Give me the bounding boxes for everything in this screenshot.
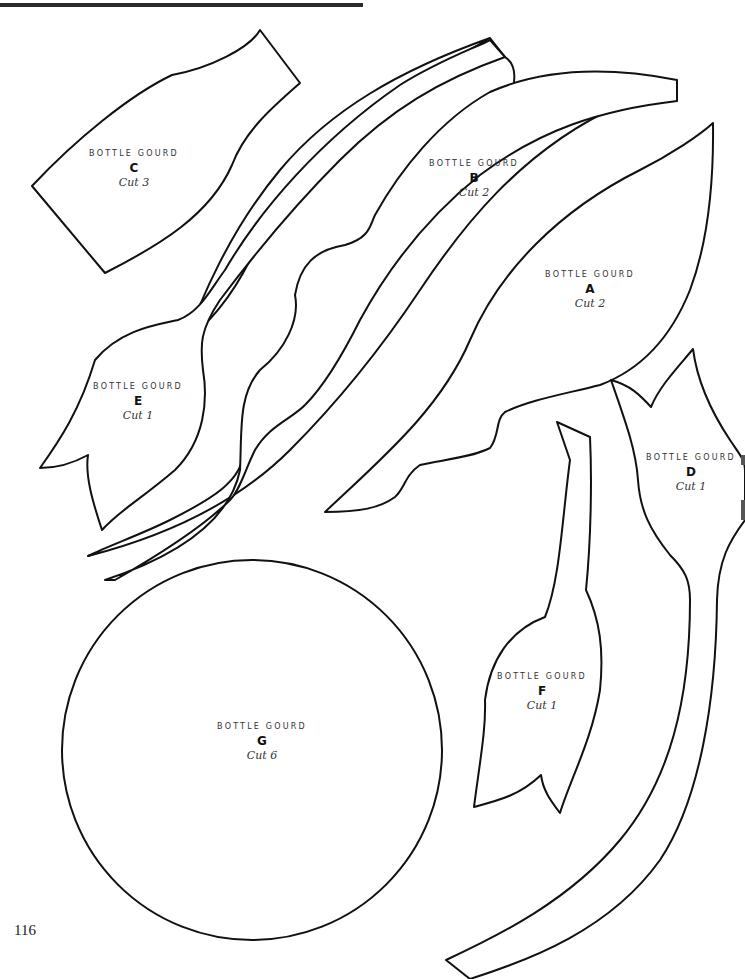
piece-title: BOTTLE GOURD bbox=[93, 383, 183, 391]
piece-cut-count: Cut 3 bbox=[89, 177, 179, 188]
pattern-shapes bbox=[0, 0, 745, 979]
binding-edge-mark bbox=[741, 455, 745, 465]
piece-label-g: BOTTLE GOURD G Cut 6 bbox=[217, 723, 307, 761]
piece-title: BOTTLE GOURD bbox=[429, 160, 519, 168]
piece-label-f: BOTTLE GOURD F Cut 1 bbox=[497, 673, 587, 711]
piece-cut-count: Cut 1 bbox=[93, 410, 183, 421]
piece-title: BOTTLE GOURD bbox=[646, 454, 736, 462]
piece-label-e: BOTTLE GOURD E Cut 1 bbox=[93, 383, 183, 421]
piece-label-c: BOTTLE GOURD C Cut 3 bbox=[89, 150, 179, 188]
piece-cut-count: Cut 1 bbox=[646, 481, 736, 492]
piece-label-d: BOTTLE GOURD D Cut 1 bbox=[646, 454, 736, 492]
pattern-piece-f-outline bbox=[474, 422, 601, 813]
binding-edge-mark bbox=[741, 500, 745, 520]
piece-letter: C bbox=[89, 162, 179, 174]
piece-label-a: BOTTLE GOURD A Cut 2 bbox=[545, 271, 635, 309]
piece-cut-count: Cut 1 bbox=[497, 700, 587, 711]
piece-cut-count: Cut 2 bbox=[429, 187, 519, 198]
piece-title: BOTTLE GOURD bbox=[217, 723, 307, 731]
piece-cut-count: Cut 6 bbox=[217, 750, 307, 761]
piece-title: BOTTLE GOURD bbox=[89, 150, 179, 158]
piece-letter: G bbox=[217, 735, 307, 747]
piece-letter: E bbox=[93, 395, 183, 407]
piece-letter: B bbox=[429, 172, 519, 184]
piece-letter: D bbox=[646, 466, 736, 478]
piece-title: BOTTLE GOURD bbox=[545, 271, 635, 279]
piece-cut-count: Cut 2 bbox=[545, 298, 635, 309]
piece-letter: F bbox=[497, 685, 587, 697]
piece-letter: A bbox=[545, 283, 635, 295]
page-number: 116 bbox=[14, 922, 36, 939]
piece-label-b: BOTTLE GOURD B Cut 2 bbox=[429, 160, 519, 198]
piece-title: BOTTLE GOURD bbox=[497, 673, 587, 681]
